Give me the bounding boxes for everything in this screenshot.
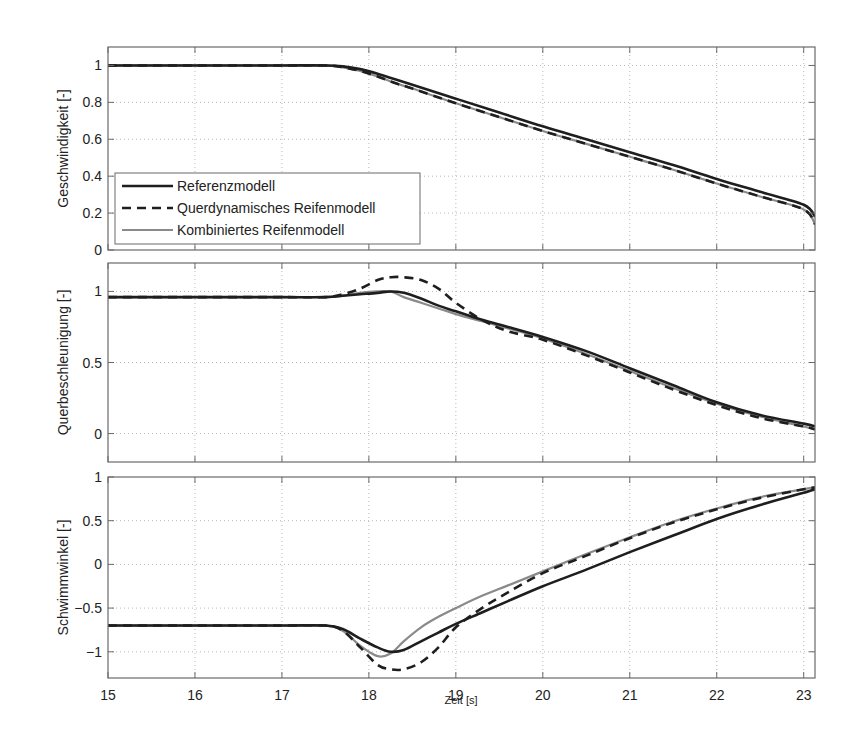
y-tick-label: 0.2: [83, 205, 103, 221]
chart-canvas: 00.20.40.60.81Geschwindigkeit [-] 00.51Q…: [0, 0, 858, 756]
y-tick-label: 0: [94, 426, 102, 442]
y-tick-label: −1: [86, 644, 102, 660]
y-axis-label: Geschwindigkeit [-]: [55, 89, 71, 207]
y-tick-label: 1: [94, 283, 102, 299]
x-axis-label: Zeit [s]: [444, 694, 477, 706]
y-tick-label: 0.4: [83, 168, 103, 184]
x-tick-label: 15: [100, 687, 116, 703]
y-tick-label: 0: [94, 242, 102, 258]
y-tick-label: 0.5: [83, 513, 103, 529]
x-tick-label: 23: [796, 687, 812, 703]
y-tick-label: 0.6: [83, 131, 103, 147]
x-tick-label: 17: [274, 687, 290, 703]
y-tick-label: −0.5: [74, 600, 102, 616]
panel-schwimmwinkel: −1−0.500.51151617181920212223Schwimmwink…: [55, 469, 815, 703]
y-tick-label: 0.5: [83, 355, 103, 371]
x-tick-label: 16: [187, 687, 203, 703]
figure: 00.20.40.60.81Geschwindigkeit [-] 00.51Q…: [0, 0, 858, 756]
panel-querbeschleunigung: 00.51Querbeschleunigung [-]: [55, 263, 815, 462]
y-tick-label: 0: [94, 556, 102, 572]
legend-label: Querdynamisches Reifenmodell: [177, 200, 375, 216]
y-axis-label: Querbeschleunigung [-]: [55, 290, 71, 436]
x-tick-label: 21: [622, 687, 638, 703]
legend-label: Kombiniertes Reifenmodell: [177, 222, 344, 238]
legend: ReferenzmodellQuerdynamisches Reifenmode…: [115, 173, 420, 244]
plot-area: [108, 477, 815, 678]
y-tick-label: 1: [94, 469, 102, 485]
x-tick-label: 18: [361, 687, 377, 703]
y-axis-label: Schwimmwinkel [-]: [55, 520, 71, 636]
legend-label: Referenzmodell: [177, 178, 275, 194]
y-tick-label: 0.8: [83, 94, 103, 110]
x-tick-label: 22: [709, 687, 725, 703]
y-tick-label: 1: [94, 57, 102, 73]
x-tick-label: 20: [535, 687, 551, 703]
